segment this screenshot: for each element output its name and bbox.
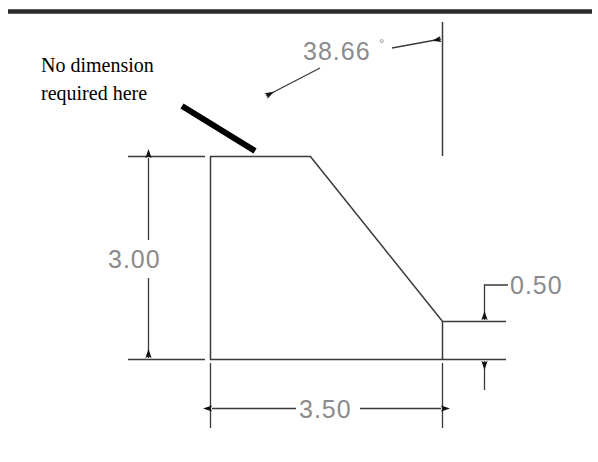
annotation-leader-line — [182, 106, 255, 151]
angle-leader-to-diagonal — [266, 68, 320, 96]
angle-dimension-label: 38.66 — [303, 37, 371, 65]
right-edge-leader — [485, 285, 509, 292]
height-dimension-label: 3.00 — [108, 245, 161, 273]
angle-degree-symbol: ° — [379, 36, 384, 51]
angle-dimension-group: 38.66 ° — [266, 36, 441, 96]
right-edge-dimension-label: 0.50 — [510, 271, 563, 299]
width-dimension-label: 3.50 — [299, 395, 352, 423]
angle-leader-to-reference — [392, 39, 441, 48]
annotation-note-group: No dimension required here — [41, 54, 255, 151]
drawing-page: 3.00 3.50 0.50 38.66 ° No dim — [0, 0, 598, 462]
part-outline — [210, 156, 443, 360]
annotation-note-line-1: No dimension — [41, 54, 154, 76]
width-dimension-group: 3.50 — [211, 363, 443, 428]
annotation-note-line-2: required here — [41, 82, 147, 105]
height-dimension-group: 3.00 — [104, 157, 205, 360]
technical-drawing-canvas: 3.00 3.50 0.50 38.66 ° No dim — [0, 0, 598, 462]
edge-diagonal — [310, 156, 443, 322]
right-edge-dimension-group: 0.50 — [443, 271, 563, 390]
